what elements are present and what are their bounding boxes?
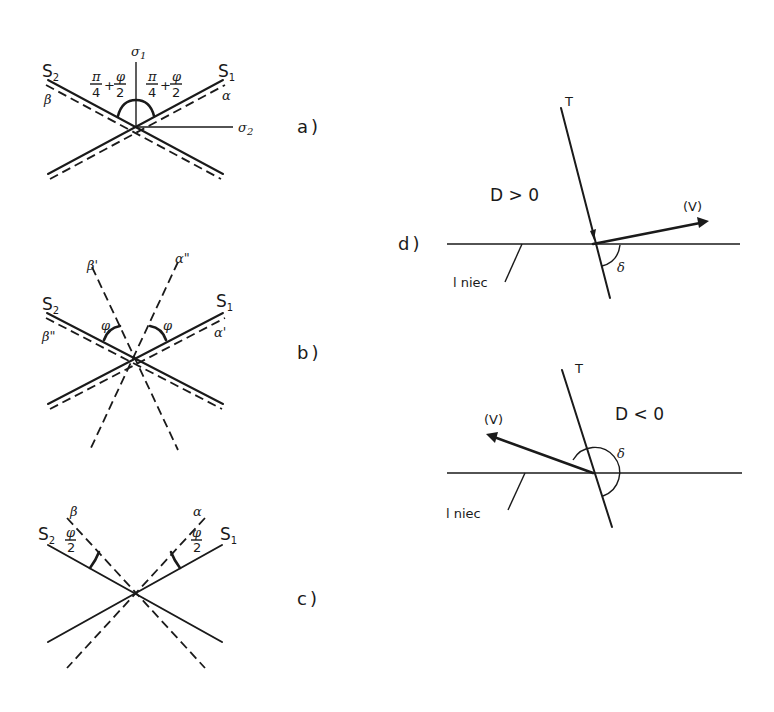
beta-prime-label: β' (86, 258, 98, 273)
angle-left-fraction: π 4 + φ 2 (90, 69, 126, 100)
sigma2-label: σ2 (238, 120, 253, 137)
half-phi-right-fraction: φ 2 (191, 525, 202, 555)
fault-label: l niec (453, 275, 488, 290)
phi-right-label: φ (163, 318, 173, 333)
condition-label: D < 0 (615, 404, 664, 424)
plus-sign: + (104, 78, 115, 93)
alpha-dprime-label: α" (175, 251, 190, 266)
beta-label: β (43, 92, 52, 107)
panel-a-label: a) (297, 116, 321, 137)
four-denominator: 4 (92, 85, 100, 100)
v-arrowhead (486, 432, 498, 443)
phi-left-label: φ (101, 318, 111, 333)
s2-label: S2 (38, 524, 55, 546)
v-vector (494, 437, 593, 473)
plus-sign: + (160, 78, 171, 93)
s2-label: S2 (42, 61, 59, 83)
two-denominator: 2 (193, 540, 201, 555)
pi-numerator: π (147, 69, 157, 84)
phi-numerator: φ (192, 525, 202, 540)
delta-label: δ (617, 446, 625, 461)
phi-numerator: φ (116, 69, 126, 84)
panel-c: S2 S1 β α φ 2 φ 2 c) (38, 504, 320, 668)
panel-c-label: c) (297, 588, 320, 609)
sigma1-label: σ1 (131, 44, 146, 61)
t-axis (561, 108, 610, 298)
v-label: (V) (683, 199, 702, 214)
v-arrowhead (697, 217, 709, 228)
panel-b: S2 S1 β' α" β" α' φ φ b) (41, 251, 321, 450)
panel-d-lower: T (V) D < 0 δ l niec (446, 361, 742, 527)
panel-d: d) T (V) D > 0 δ l niec T (V) D < (398, 94, 742, 527)
pi-numerator: π (91, 69, 101, 84)
diagram-canvas: S2 S1 β α σ1 σ2 π 4 + φ 2 π 4 + φ 2 a) (0, 0, 774, 712)
delta-label: δ (617, 260, 625, 275)
fault-label: l niec (446, 506, 481, 521)
angle-right-fraction: π 4 + φ 2 (146, 69, 182, 100)
phi-numerator: φ (66, 525, 76, 540)
v-vector (593, 223, 700, 244)
panel-d-upper: T (V) D > 0 δ l niec (447, 94, 740, 298)
s2-label: S2 (42, 294, 59, 316)
fault-mechanics-figure: S2 S1 β α σ1 σ2 π 4 + φ 2 π 4 + φ 2 a) (0, 0, 774, 712)
t-label: T (564, 94, 573, 109)
two-denominator: 2 (172, 85, 180, 100)
s1-label: S1 (218, 61, 235, 83)
two-denominator: 2 (116, 85, 124, 100)
two-denominator: 2 (67, 540, 75, 555)
phi-numerator: φ (172, 69, 182, 84)
beta-dprime-label: β" (41, 329, 56, 344)
condition-label: D > 0 (490, 185, 539, 205)
panel-a: S2 S1 β α σ1 σ2 π 4 + φ 2 π 4 + φ 2 a) (42, 44, 321, 179)
four-denominator: 4 (148, 85, 156, 100)
delta-arc (573, 447, 620, 496)
s1-label: S1 (216, 291, 233, 313)
fault-leader (508, 473, 525, 510)
alpha-prime-label: α' (214, 325, 226, 340)
panel-b-label: b) (297, 342, 321, 363)
half-phi-arc-right (171, 552, 180, 568)
alpha-label: α (222, 88, 231, 103)
beta-label: β (69, 504, 78, 519)
beta-dprime-plane (46, 318, 222, 409)
alpha-prime-plane (50, 318, 225, 409)
panel-d-label: d) (398, 233, 422, 254)
half-phi-arc-left (90, 552, 99, 568)
v-label: (V) (484, 412, 503, 427)
alpha-label: α (193, 504, 202, 519)
t-label: T (574, 361, 583, 376)
half-phi-left-fraction: φ 2 (65, 525, 76, 555)
fault-leader (505, 244, 522, 282)
s1-label: S1 (220, 524, 237, 546)
